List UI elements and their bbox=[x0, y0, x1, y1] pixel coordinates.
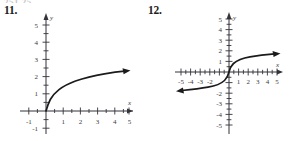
x-label-neg5: -5 bbox=[178, 78, 184, 86]
y-label-5: 5 bbox=[219, 16, 223, 24]
y-label-neg1: -1 bbox=[32, 125, 38, 133]
x-label-1: 1 bbox=[61, 118, 65, 126]
x-label-neg3: -3 bbox=[197, 78, 203, 86]
y-label-5: 5 bbox=[35, 22, 39, 30]
y-label-4: 4 bbox=[35, 39, 39, 47]
x-axis-label: x bbox=[275, 61, 280, 69]
x-label-1: 1 bbox=[237, 78, 241, 86]
cbrt-curve-arrowhead-left bbox=[176, 88, 184, 94]
exercise-page: 251 25. 11. bbox=[0, 0, 293, 141]
y-label-neg2: -2 bbox=[216, 90, 222, 98]
sqrt-curve bbox=[46, 71, 125, 111]
problem-12-plot: -5 -4 -3 -2 1 2 3 4 5 5 4 3 2 1 -2 -3 -4 bbox=[171, 6, 289, 138]
x-label-3: 3 bbox=[96, 118, 100, 126]
x-label-4: 4 bbox=[266, 78, 270, 86]
x-label-neg4: -4 bbox=[188, 78, 194, 86]
y-axis-arrowhead bbox=[227, 12, 232, 19]
square-root-chart: -1 1 2 3 4 5 5 4 3 2 1 -1 x y bbox=[18, 8, 142, 136]
y-axis-label: y bbox=[232, 14, 237, 22]
cbrt-curve-arrowhead-right bbox=[273, 51, 281, 57]
y-label-1: 1 bbox=[219, 58, 223, 66]
x-label-neg2: -2 bbox=[207, 78, 213, 86]
y-axis-arrowhead bbox=[44, 13, 49, 20]
curve-arrowhead bbox=[123, 68, 131, 74]
problem-11-plot: -1 1 2 3 4 5 5 4 3 2 1 -1 x y bbox=[18, 8, 142, 136]
problem-12-number: 12. bbox=[148, 4, 162, 16]
y-label-4: 4 bbox=[219, 26, 223, 34]
problem-11: 11. bbox=[0, 0, 146, 141]
x-label-5: 5 bbox=[275, 78, 279, 86]
x-label-5: 5 bbox=[128, 118, 132, 126]
y-label-3: 3 bbox=[219, 37, 223, 45]
y-label-neg3: -3 bbox=[216, 100, 222, 108]
y-label-neg4: -4 bbox=[216, 111, 222, 119]
x-label-3: 3 bbox=[256, 78, 260, 86]
y-axis-label: y bbox=[49, 14, 54, 22]
y-label-2: 2 bbox=[219, 47, 223, 55]
y-label-1: 1 bbox=[35, 90, 39, 98]
cube-root-chart: -5 -4 -3 -2 1 2 3 4 5 5 4 3 2 1 -2 -3 -4 bbox=[171, 6, 289, 138]
problem-12: 12. bbox=[146, 0, 293, 141]
x-axis-arrowhead bbox=[127, 109, 133, 114]
x-label-2: 2 bbox=[79, 118, 83, 126]
x-label-4: 4 bbox=[113, 118, 117, 126]
y-label-3: 3 bbox=[35, 56, 39, 64]
x-label-2: 2 bbox=[246, 78, 250, 86]
problem-11-number: 11. bbox=[4, 4, 17, 16]
x-axis-arrowhead bbox=[277, 70, 283, 75]
y-label-neg5: -5 bbox=[216, 122, 222, 130]
y-label-2: 2 bbox=[35, 73, 39, 81]
x-axis-label: x bbox=[127, 99, 132, 107]
